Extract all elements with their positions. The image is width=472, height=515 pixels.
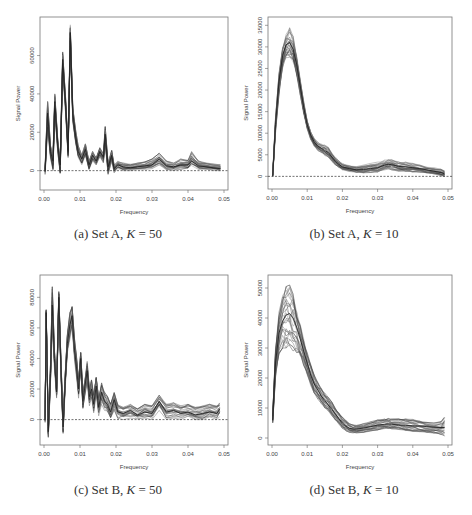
x-tick-label: 0.03 bbox=[146, 196, 158, 202]
series-line bbox=[273, 30, 445, 175]
x-tick-label: 0.00 bbox=[266, 195, 278, 201]
series-line bbox=[273, 32, 445, 175]
y-axis-label: Signal Power bbox=[15, 342, 21, 377]
x-tick-label: 0.03 bbox=[146, 451, 158, 457]
series-line bbox=[45, 27, 220, 169]
series-line bbox=[45, 287, 220, 426]
series-line bbox=[273, 42, 445, 176]
series-line bbox=[45, 28, 220, 167]
x-tick-label: 0.04 bbox=[407, 195, 419, 201]
y-tick-label: 80000 bbox=[29, 288, 35, 305]
x-tick-label: 0.02 bbox=[110, 451, 122, 457]
series-line bbox=[273, 41, 445, 175]
y-tick-label: 15000 bbox=[257, 103, 263, 120]
series-line bbox=[273, 38, 445, 175]
figure-panel-d: 0.000.010.020.030.040.050100002000030000… bbox=[236, 258, 472, 508]
y-tick-label: 40000 bbox=[29, 349, 35, 366]
y-tick-label: 10000 bbox=[257, 124, 263, 141]
x-tick-label: 0.02 bbox=[110, 196, 122, 202]
series-line bbox=[45, 29, 220, 168]
caption-a: (a) Set A, K = 50 bbox=[0, 226, 236, 242]
y-axis-label: Signal Power bbox=[243, 85, 249, 120]
x-tick-label: 0.00 bbox=[266, 451, 278, 457]
y-tick-label: 0 bbox=[29, 417, 35, 421]
series-line bbox=[273, 299, 445, 428]
y-tick-label: 20000 bbox=[29, 123, 35, 140]
y-axis-label: Signal Power bbox=[243, 342, 249, 377]
x-tick-label: 0.05 bbox=[218, 196, 230, 202]
y-tick-label: 60000 bbox=[29, 47, 35, 64]
y-tick-label: 0 bbox=[257, 436, 263, 440]
chart-d: 0.000.010.020.030.040.050100002000030000… bbox=[236, 258, 472, 478]
series-line bbox=[45, 28, 220, 168]
series-line bbox=[273, 37, 445, 175]
y-tick-label: 0 bbox=[257, 174, 263, 178]
x-tick-label: 0.05 bbox=[218, 451, 230, 457]
x-axis-label: Frequency bbox=[120, 464, 148, 470]
chart-a: 0.000.010.020.030.040.050200004000060000… bbox=[0, 0, 236, 220]
y-tick-label: 0 bbox=[29, 168, 35, 172]
x-tick-label: 0.02 bbox=[337, 451, 349, 457]
x-tick-label: 0.05 bbox=[442, 195, 454, 201]
series-line bbox=[273, 46, 445, 176]
series-line bbox=[273, 42, 445, 176]
y-tick-label: 50000 bbox=[257, 279, 263, 296]
series-line bbox=[273, 285, 445, 425]
series-line bbox=[273, 42, 445, 175]
y-tick-label: 20000 bbox=[257, 369, 263, 386]
series-line bbox=[273, 287, 445, 428]
series-line bbox=[273, 45, 445, 176]
caption-b: (b) Set A, K = 10 bbox=[236, 226, 472, 242]
x-tick-label: 0.04 bbox=[182, 196, 194, 202]
y-axis-label: Signal Power bbox=[15, 86, 21, 121]
series-line bbox=[273, 28, 445, 175]
x-tick-label: 0.01 bbox=[74, 451, 86, 457]
y-tick-label: 10000 bbox=[257, 399, 263, 416]
x-axis-label: Frequency bbox=[346, 464, 374, 470]
y-tick-label: 20000 bbox=[29, 380, 35, 397]
series-line bbox=[273, 329, 445, 433]
series-line bbox=[273, 293, 445, 427]
x-tick-label: 0.02 bbox=[337, 195, 349, 201]
series-line bbox=[273, 285, 445, 425]
y-tick-label: 5000 bbox=[257, 147, 263, 161]
series-line bbox=[273, 329, 445, 436]
series-line bbox=[273, 42, 445, 175]
x-tick-label: 0.01 bbox=[74, 196, 86, 202]
series-line bbox=[45, 25, 220, 167]
series-line bbox=[273, 33, 445, 175]
y-tick-label: 30000 bbox=[257, 339, 263, 356]
series-line bbox=[273, 290, 445, 428]
series-line bbox=[273, 287, 445, 427]
chart-b: 0.000.010.020.030.040.050500010000150002… bbox=[236, 0, 472, 220]
series-line bbox=[45, 287, 220, 428]
x-axis-label: Frequency bbox=[346, 208, 374, 214]
series-line bbox=[273, 45, 445, 175]
series-line bbox=[273, 29, 445, 175]
series-line bbox=[273, 340, 445, 434]
series-line bbox=[273, 39, 445, 175]
series-line bbox=[45, 31, 220, 169]
x-tick-label: 0.03 bbox=[372, 451, 384, 457]
plot-frame bbox=[268, 275, 452, 445]
series-line bbox=[273, 288, 445, 427]
x-tick-label: 0.04 bbox=[182, 451, 194, 457]
caption-c: (c) Set B, K = 50 bbox=[0, 482, 236, 498]
figure-panel-a: 0.000.010.020.030.040.050200004000060000… bbox=[0, 0, 236, 250]
x-tick-label: 0.04 bbox=[407, 451, 419, 457]
mean-line bbox=[273, 43, 445, 177]
y-tick-label: 40000 bbox=[29, 85, 35, 102]
figure-panel-b: 0.000.010.020.030.040.050500010000150002… bbox=[236, 0, 472, 250]
x-axis-label: Frequency bbox=[120, 209, 148, 215]
series-line bbox=[273, 330, 445, 432]
x-tick-label: 0.00 bbox=[38, 451, 50, 457]
series-line bbox=[45, 28, 220, 168]
x-tick-label: 0.03 bbox=[372, 195, 384, 201]
plot-frame bbox=[268, 17, 452, 189]
x-tick-label: 0.01 bbox=[301, 451, 313, 457]
series-line bbox=[273, 40, 445, 175]
caption-d: (d) Set B, K = 10 bbox=[236, 482, 472, 498]
x-tick-label: 0.00 bbox=[38, 196, 50, 202]
y-tick-label: 60000 bbox=[29, 319, 35, 336]
series-line bbox=[273, 302, 445, 427]
